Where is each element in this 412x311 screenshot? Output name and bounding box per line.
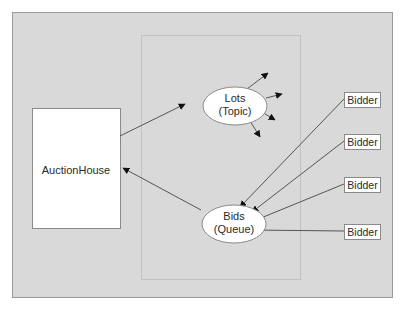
bidder-node: Bidder [345,93,381,108]
bids-sublabel: (Queue) [214,223,254,235]
bids-queue-node: Bids (Queue) [202,205,266,243]
bidder-label: Bidder [347,94,378,106]
bidder-node: Bidder [345,135,381,150]
bids-label: Bids [223,210,245,222]
auction-house-label: AuctionHouse [42,164,111,176]
lots-topic-node: Lots (Topic) [203,87,267,125]
auction-house-node: AuctionHouse [33,109,121,229]
lots-label: Lots [225,92,246,104]
bidder-label: Bidder [347,179,378,191]
bidder-label: Bidder [347,226,378,238]
bidder-node: Bidder [345,225,381,240]
auction-architecture-diagram: AuctionHouse Lots (Topic) Bids (Queue) B… [0,0,412,311]
bidder-label: Bidder [347,136,378,148]
lots-sublabel: (Topic) [218,105,251,117]
bidder-node: Bidder [345,178,381,193]
